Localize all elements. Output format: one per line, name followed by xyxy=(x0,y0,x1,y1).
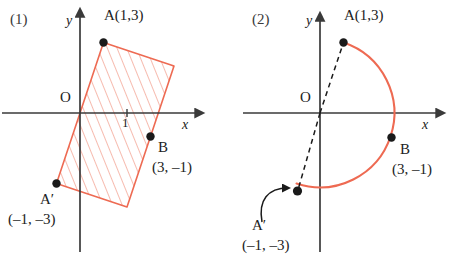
panel-2-label-A-prime-coords: (–1, –3) xyxy=(242,238,290,253)
panel-2-label-A-prime: A′ xyxy=(252,218,266,233)
panel-2-label-B: B xyxy=(400,142,410,157)
panel-2-y-axis-label: y xyxy=(306,14,312,28)
circular-arc xyxy=(297,43,395,188)
panel-2-origin-label: O xyxy=(300,90,311,105)
panel-2-label-B-coords: (3, –1) xyxy=(392,162,432,177)
point-A xyxy=(339,38,347,46)
panel-2-label-A: A(1,3) xyxy=(344,8,384,23)
panel-2-x-axis-label: x xyxy=(422,118,428,132)
axes-panel-2 xyxy=(243,20,437,252)
point-B xyxy=(387,133,395,141)
figure-container: (1) y x O 1 A(1,3) B (3, –1) A′ (–1, –3) xyxy=(0,0,453,259)
panel-2-graphic xyxy=(0,0,453,259)
point-A-prime xyxy=(293,186,302,195)
plot-points-panel-2 xyxy=(293,38,396,195)
panel-2-number: (2) xyxy=(252,12,270,27)
